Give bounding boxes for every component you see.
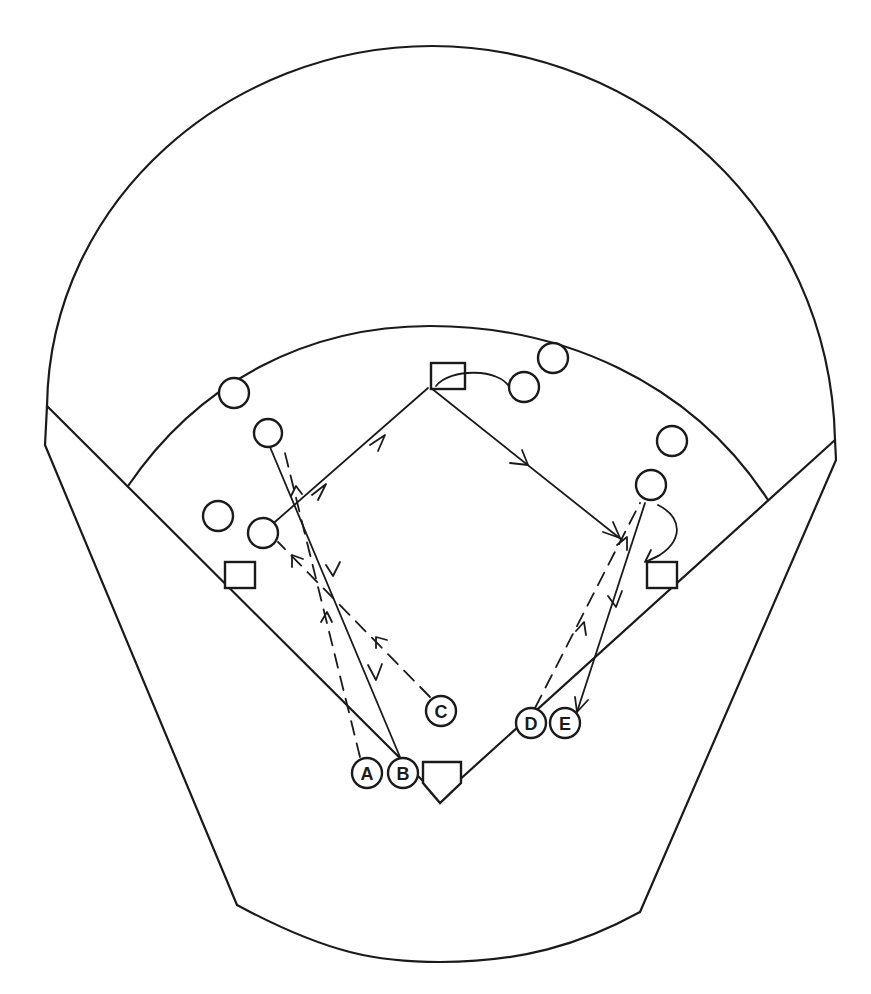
1b-cover-curve [650,505,677,560]
third-base [225,562,255,588]
player-c-label: C [435,702,448,722]
fielder-third-deep [203,501,233,531]
player-a-label: A [361,764,374,784]
fielder-second-base [509,372,539,402]
infield-arc [128,326,768,500]
third-base-foul-line [47,406,425,783]
player-a: A [352,758,382,788]
player-e: E [550,708,580,738]
right-outer-wall [640,440,836,912]
fielder-center-field [538,343,568,373]
player-d-label: D [525,714,538,734]
fielder-first-base [636,470,666,500]
home-plate [423,762,461,803]
player-b: B [388,758,418,788]
fielder-right-field [657,426,687,456]
backstop-arc [237,905,640,962]
arrow-head [312,484,326,500]
baseball-field-diagram: A B C D E [0,0,871,994]
arrow-head [326,562,340,576]
player-d: D [516,708,546,738]
player-c: C [426,696,456,726]
player-b-label: B [397,764,410,784]
player-e-label: E [559,714,571,734]
throw-lf-to-home [270,447,400,757]
fielder-left-center [254,419,282,447]
fielder-left-field [219,378,249,408]
first-base [647,562,677,588]
arrow-head [368,664,382,680]
run-c-to-3b [278,542,430,697]
left-outer-wall [45,406,237,905]
fielder-third-base [248,518,278,548]
throw-3b-to-2b [268,388,428,528]
